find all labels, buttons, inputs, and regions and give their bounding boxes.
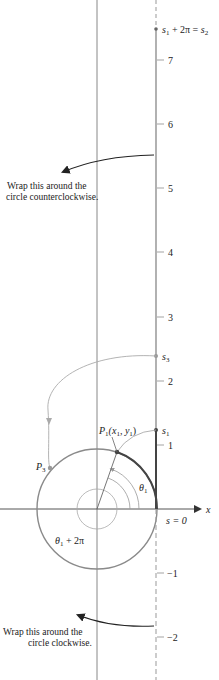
s3-to-p3-curve <box>48 356 156 468</box>
unit-circle-wrapping-diagram: x 7 6 5 4 3 2 1 −1 −2 s = 0 <box>0 0 219 680</box>
tick-label-1: 1 <box>168 440 173 451</box>
ccw-annotation-line2: circle counterclockwise. <box>6 192 98 202</box>
point-p3 <box>48 466 52 470</box>
cw-annotation-line2: circle clockwise. <box>28 638 92 648</box>
x-axis-label: x <box>205 504 211 515</box>
s2-label: s1 + 2π = s2 <box>162 24 209 37</box>
tick-label-4: 4 <box>168 247 173 258</box>
tick-label-3: 3 <box>168 312 173 323</box>
p1-label: P1(x1, y1) <box>98 425 136 438</box>
s3-curve-arrow <box>46 418 52 425</box>
origin-s-label: s = 0 <box>166 515 187 526</box>
theta1-arc-outer <box>111 469 139 509</box>
tick-label-neg1: −1 <box>167 568 178 579</box>
s3-label: s3 <box>162 351 170 364</box>
cw-annotation-line1: Wrap this around the <box>3 627 83 637</box>
cw-wrap-arrow <box>78 615 154 626</box>
tick-label-5: 5 <box>168 183 173 194</box>
ccw-annotation-line1: Wrap this around the <box>7 181 87 191</box>
tick-label-2: 2 <box>168 376 173 387</box>
arc-s1-on-circle <box>117 452 157 509</box>
tick-labels: 7 6 5 4 3 2 1 −1 −2 <box>167 55 178 643</box>
point-s2 <box>154 27 158 31</box>
theta1-arc-inner <box>108 478 130 509</box>
ccw-wrap-arrow <box>63 155 154 172</box>
s1-label: s1 <box>162 425 170 438</box>
tick-marks <box>157 60 164 637</box>
tick-label-6: 6 <box>168 119 173 130</box>
tick-label-neg2: −2 <box>167 632 178 643</box>
tick-label-7: 7 <box>168 55 173 66</box>
theta1-plus-2pi-label: θ1 + 2π <box>55 535 84 548</box>
theta1-label: θ1 <box>139 482 148 495</box>
p1-leader-line <box>112 437 117 452</box>
p3-label: P3 <box>35 461 46 474</box>
